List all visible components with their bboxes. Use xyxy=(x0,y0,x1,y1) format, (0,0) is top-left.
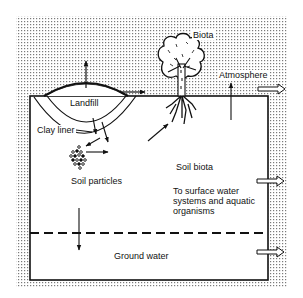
label-clay-liner: Clay liner xyxy=(36,125,76,135)
label-ground-water: Ground water xyxy=(114,251,169,261)
label-landfill: Landfill xyxy=(70,98,99,108)
label-soil-particles: Soil particles xyxy=(71,176,122,186)
label-surface-water: To surface water systems and aquatic org… xyxy=(173,186,261,216)
label-biota: Biota xyxy=(192,30,215,40)
environmental-fate-diagram: Biota Atmosphere Landfill Clay liner Soi… xyxy=(0,0,303,298)
label-atmosphere: Atmosphere xyxy=(218,70,269,80)
label-soil-biota: Soil biota xyxy=(176,162,213,172)
